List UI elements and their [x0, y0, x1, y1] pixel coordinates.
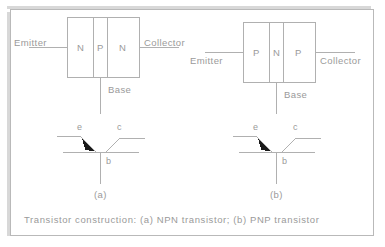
npn-symbol-collector-label: c: [117, 123, 122, 132]
pnp-base-label: Base: [284, 90, 307, 100]
npn-symbol-emitter-label: e: [77, 123, 82, 132]
npn-symbol-drawing: [57, 137, 145, 184]
panel-b-sub-label: (b): [270, 190, 283, 200]
npn-region-2-label: P: [97, 43, 104, 53]
pnp-symbol-collector-label: c: [293, 123, 298, 132]
npn-collector-label: Collector: [144, 38, 185, 48]
pnp-emitter-label: Emitter: [190, 56, 223, 66]
pnp-construction-drawing: [205, 23, 355, 114]
pnp-symbol-base-label: b: [282, 157, 287, 166]
npn-construction-drawing: [29, 18, 179, 114]
figure-linework: [0, 0, 385, 247]
panel-a-sub-label: (a): [94, 190, 107, 200]
npn-region-3-label: N: [119, 43, 126, 53]
figure-caption: Transistor construction: (a) NPN transis…: [24, 215, 319, 225]
npn-emitter-label: Emitter: [14, 38, 47, 48]
npn-region-1-label: N: [77, 43, 84, 53]
transistor-construction-figure: Emitter Collector N P N Base e c b (a) E…: [0, 0, 385, 247]
pnp-region-3-label: P: [295, 48, 302, 58]
pnp-symbol-emitter-label: e: [253, 123, 258, 132]
pnp-collector-label: Collector: [320, 56, 361, 66]
pnp-region-2-label: N: [273, 48, 280, 58]
pnp-symbol-drawing: [233, 137, 321, 184]
npn-base-label: Base: [108, 85, 131, 95]
pnp-region-1-label: P: [253, 48, 260, 58]
npn-symbol-base-label: b: [106, 157, 111, 166]
